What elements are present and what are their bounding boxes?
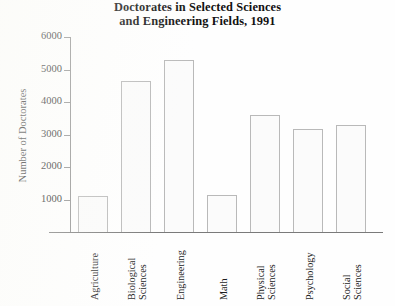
y-tick-label-wrap: 6000	[22, 37, 62, 38]
x-label-line: Sciences	[137, 258, 148, 300]
x-label-line: Psychology	[304, 252, 315, 300]
y-tick-2000	[64, 167, 71, 168]
x-label-line: Engineering	[175, 250, 186, 300]
bar-physical-sciences	[250, 115, 280, 232]
x-axis-label-biological-sciences: BiologicalSciences	[126, 258, 148, 300]
x-axis-label-psychology: Psychology	[304, 252, 315, 300]
x-axis-label-agriculture: Agriculture	[89, 253, 100, 300]
x-axis-label-social-sciences: SocialSciences	[341, 264, 363, 300]
y-tick-label-wrap: 5000	[22, 70, 62, 71]
chart-title-line-2: and Engineering Fields, 1991	[0, 15, 395, 29]
y-tick-label-5000: 5000	[26, 63, 62, 74]
x-axis-label-physical-sciences: PhysicalSciences	[255, 264, 277, 300]
x-axis-label-math: Math	[218, 278, 229, 300]
y-tick-label-6000: 6000	[26, 30, 62, 41]
y-tick-label-wrap: 3000	[22, 135, 62, 136]
y-tick-3000	[64, 135, 71, 136]
bar-psychology	[293, 129, 323, 232]
x-label-line: Social	[341, 264, 352, 300]
y-tick-label-wrap: 4000	[22, 102, 62, 103]
x-label-line: Physical	[255, 264, 266, 300]
x-label-line: Agriculture	[89, 253, 100, 300]
x-axis-line	[49, 232, 383, 233]
chart-title-line-1: Doctorates in Selected Sciences	[0, 1, 395, 15]
bar-biological-sciences	[121, 81, 151, 232]
y-tick-label-2000: 2000	[26, 160, 62, 171]
chart-title: Doctorates in Selected Sciences and Engi…	[0, 1, 395, 28]
y-tick-label-4000: 4000	[26, 95, 62, 106]
y-tick-label-wrap: 2000	[22, 167, 62, 168]
x-label-line: Sciences	[266, 264, 277, 300]
y-tick-label-3000: 3000	[26, 128, 62, 139]
y-tick-1000	[64, 200, 71, 201]
bar-agriculture	[78, 196, 108, 232]
y-tick-4000	[64, 102, 71, 103]
x-label-line: Sciences	[352, 264, 363, 300]
bar-math	[207, 195, 237, 232]
bar-engineering	[164, 60, 194, 232]
y-tick-6000	[64, 37, 71, 38]
y-tick-5000	[64, 70, 71, 71]
chart-page: Doctorates in Selected Sciences and Engi…	[0, 0, 395, 306]
x-axis-label-engineering: Engineering	[175, 250, 186, 300]
y-tick-label-wrap: 1000	[22, 200, 62, 201]
bar-social-sciences	[336, 125, 366, 232]
y-tick-label-1000: 1000	[26, 193, 62, 204]
x-label-line: Math	[218, 278, 229, 300]
x-label-line: Biological	[126, 258, 137, 300]
